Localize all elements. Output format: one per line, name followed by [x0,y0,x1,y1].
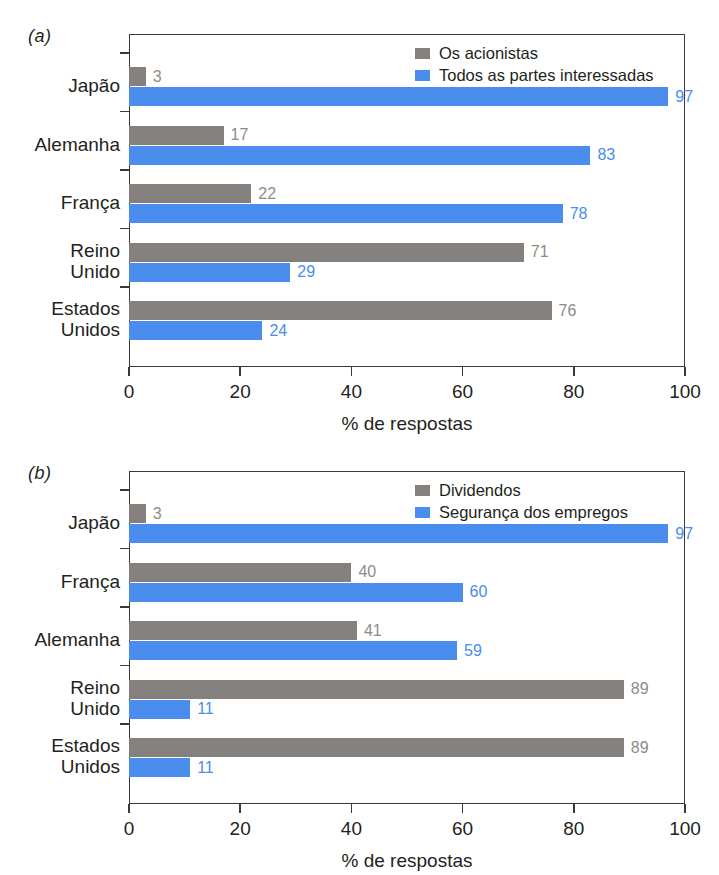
y-axis-tick [120,286,129,288]
legend-item[interactable]: Os acionistas [415,42,654,64]
bar-row: 17 [129,126,685,145]
bar-row: 76 [129,301,685,320]
y-axis-tick [120,606,129,608]
bar-value-label: 17 [224,127,249,143]
x-axis-tick-label: 80 [563,818,584,840]
bar-row: 97 [129,87,685,106]
bar-row: 89 [129,738,685,757]
bar-group: 4159 [129,618,685,665]
bar [129,321,262,340]
bar-value-label: 11 [190,701,214,717]
bar-group: 8911 [129,735,685,782]
bar [129,641,457,660]
category-label: EstadosUnidos [8,735,120,777]
bar-value-label: 3 [146,68,162,84]
chart-legend: Os acionistasTodos as partes interessada… [415,42,654,86]
category-label-line: Alemanha [8,134,120,155]
bar [129,621,357,640]
bar-value-label: 3 [146,505,162,521]
bar-value-label: 83 [590,147,615,163]
legend-item[interactable]: Segurança dos empregos [415,501,628,523]
y-axis-tick [120,169,129,171]
x-axis-tick-label: 0 [124,381,135,403]
y-axis-tick [120,548,129,550]
chart-panel-a: (a)JapãoAlemanhaFrançaReinoUnidoEstadosU… [0,0,719,437]
category-label-line: Unidos [8,756,120,777]
legend-label: Todos as partes interessadas [439,67,654,84]
bar-group: 7129 [129,240,685,287]
bar [129,67,146,86]
category-label: Alemanha [8,629,120,650]
x-axis-tick-label: 60 [452,381,473,403]
category-label-line: França [8,192,120,213]
bar-row: 11 [129,700,685,719]
x-axis-tick [573,804,575,813]
category-label: Japão [8,75,120,96]
bar-value-label: 22 [251,185,276,201]
x-axis-tick [462,804,464,813]
category-label-line: Estados [8,735,120,756]
x-axis-tick-label: 60 [452,818,473,840]
bar [129,243,524,262]
bar [129,583,463,602]
y-axis-tick [120,228,129,230]
x-axis-tick-label: 100 [669,818,701,840]
bar-value-label: 78 [563,205,588,221]
category-label-line: Reino [8,677,120,698]
bar-value-label: 89 [624,740,649,756]
category-label: ReinoUnido [8,677,120,719]
bar [129,524,668,543]
bar [129,87,668,106]
y-axis-tick [120,52,129,54]
bar [129,263,290,282]
category-label-line: Reino [8,240,120,261]
bar-row: 40 [129,563,685,582]
x-axis-tick [128,367,130,376]
legend-item[interactable]: Dividendos [415,479,628,501]
bar [129,738,624,757]
x-axis-tick [239,367,241,376]
legend-swatch-icon [415,70,430,81]
x-axis-tick [128,804,130,813]
category-label-line: Unido [8,698,120,719]
y-axis-tick [120,665,129,667]
category-label-line: Unidos [8,319,120,340]
bar [129,758,190,777]
category-label-line: França [8,571,120,592]
bar-row: 78 [129,204,685,223]
legend-label: Segurança dos empregos [439,504,628,521]
category-label-line: Alemanha [8,629,120,650]
figure-two-panel-bar-charts: (a)JapãoAlemanhaFrançaReinoUnidoEstadosU… [0,0,719,875]
x-axis-tick [239,804,241,813]
bar-group: 4060 [129,560,685,607]
bar-value-label: 71 [524,244,549,260]
bar-row: 97 [129,524,685,543]
category-label-line: Estados [8,298,120,319]
x-axis-tick [351,367,353,376]
x-axis-tick-label: 20 [230,818,251,840]
legend-item[interactable]: Todos as partes interessadas [415,64,654,86]
bar [129,680,624,699]
x-axis-tick-label: 0 [124,818,135,840]
x-axis-tick [684,367,686,376]
panel-letter: (b) [28,463,52,484]
legend-swatch-icon [415,507,430,518]
x-axis-tick-label: 40 [341,381,362,403]
legend-swatch-icon [415,48,430,59]
x-axis-tick-label: 80 [563,381,584,403]
bar [129,563,351,582]
bar [129,700,190,719]
bar-row: 22 [129,184,685,203]
bar-value-label: 41 [357,622,382,638]
category-label: França [8,192,120,213]
x-axis-tick-label: 20 [230,381,251,403]
bar-row: 71 [129,243,685,262]
page-bleed-text [0,861,719,875]
x-axis-tick [684,804,686,813]
bar-group: 7624 [129,298,685,345]
legend-label: Os acionistas [439,45,538,62]
bar-value-label: 60 [463,584,488,600]
bar-value-label: 97 [668,525,693,541]
bar [129,301,552,320]
bar [129,126,224,145]
